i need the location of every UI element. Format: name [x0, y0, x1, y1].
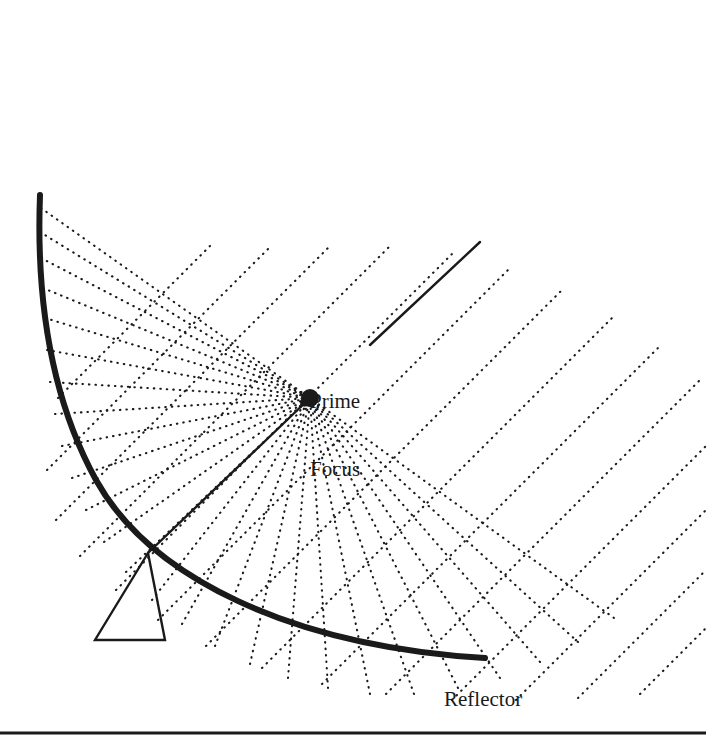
- reflected-ray: [41, 258, 310, 398]
- prime-focus-label-line1: Prime: [310, 390, 360, 413]
- figure-canvas: Prime Focus Reflector: [0, 0, 706, 749]
- reflected-ray: [41, 208, 310, 398]
- reflected-ray: [45, 318, 310, 398]
- support-strut: [148, 398, 310, 553]
- reflected-ray: [47, 350, 310, 398]
- incoming-ray: [516, 510, 706, 700]
- reflected-ray: [86, 398, 310, 510]
- incoming-ray: [386, 380, 700, 694]
- reflected-ray: [104, 398, 310, 542]
- axis-line: [370, 242, 480, 345]
- reflected-ray: [43, 288, 310, 398]
- prime-focus-label: Prime Focus: [310, 345, 360, 526]
- incoming-ray: [640, 628, 706, 694]
- reflected-ray: [288, 398, 310, 678]
- reflected-ray: [55, 398, 310, 414]
- mount-triangle: [95, 553, 165, 640]
- reflected-ray: [182, 398, 310, 624]
- prime-focus-point-inner: [301, 398, 310, 407]
- incoming-ray: [206, 290, 562, 646]
- reflector-label: Reflector: [444, 688, 522, 711]
- prime-focus-label-line2: Focus: [310, 458, 360, 481]
- reflector-arc: [39, 195, 485, 658]
- incoming-ray: [578, 570, 706, 698]
- incoming-ray: [322, 348, 658, 684]
- incoming-ray: [47, 249, 268, 470]
